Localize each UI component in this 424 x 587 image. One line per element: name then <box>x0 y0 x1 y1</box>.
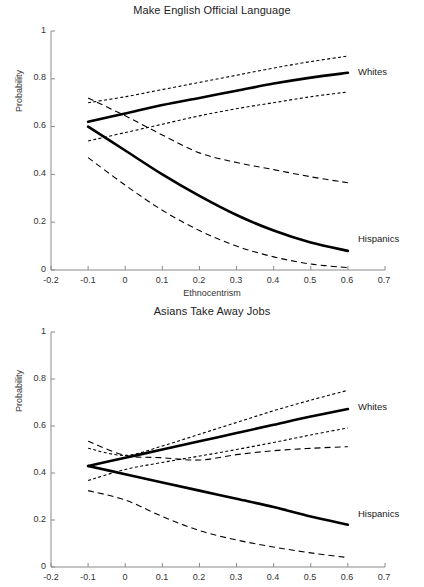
plot-area-bottom <box>0 300 424 587</box>
series-path-hispanics-lower-ci <box>88 158 348 268</box>
series-path-whites <box>88 73 348 122</box>
chart-asians-take-away-jobs: Asians Take Away Jobs Probability 1 0.8 … <box>0 300 424 587</box>
plot-area-top <box>0 0 424 300</box>
series-path-hispanics-upper-ci <box>88 98 348 183</box>
series-path-whites-lower-ci <box>88 428 348 481</box>
series-path-hispanics <box>88 466 348 525</box>
series-path-hispanics <box>88 127 348 251</box>
chart-make-english-official-language: Make English Official Language Probabili… <box>0 0 424 300</box>
series-path-hispanics-lower-ci <box>88 491 348 558</box>
series-path-whites-upper-ci <box>88 390 348 455</box>
series-path-whites-upper-ci <box>88 56 348 103</box>
